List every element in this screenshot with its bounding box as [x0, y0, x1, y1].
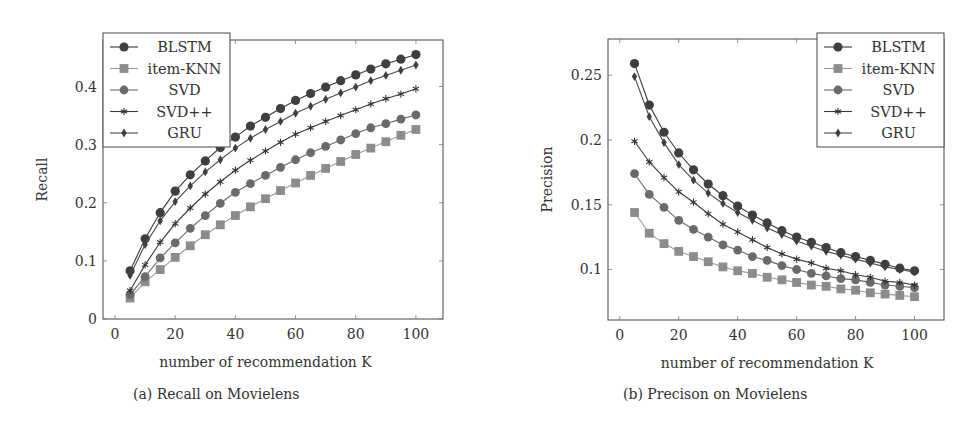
legend-marker-icon	[120, 86, 129, 95]
x-tick-label: 100	[403, 326, 430, 342]
data-point	[706, 189, 711, 198]
data-point	[338, 88, 343, 97]
data-point	[366, 64, 375, 73]
y-axis: 00.10.20.30.4Recall	[34, 79, 443, 328]
data-point	[777, 261, 786, 270]
y-tick-label: 0.15	[571, 197, 602, 213]
data-point	[910, 292, 919, 301]
data-point	[881, 290, 890, 299]
data-point	[691, 176, 696, 185]
y-tick-label: 0.2	[580, 132, 602, 148]
precision-chart-caption: (b) Precison on Movielens	[623, 386, 807, 402]
data-point	[836, 285, 845, 294]
data-point	[632, 72, 637, 81]
y-tick-label: 0	[88, 311, 97, 327]
recall-chart-panel: 020406080100number of recommendation K00…	[0, 0, 490, 439]
data-point	[366, 123, 375, 132]
x-tick-label: 40	[729, 327, 747, 343]
data-point	[218, 155, 223, 164]
data-point	[336, 136, 345, 145]
data-point	[262, 147, 268, 154]
x-tick-label: 80	[347, 326, 365, 342]
data-point	[720, 199, 725, 208]
data-point	[660, 203, 669, 212]
data-point	[171, 238, 180, 247]
data-point	[278, 117, 283, 126]
data-point	[733, 246, 742, 255]
data-point	[291, 179, 300, 188]
data-point	[704, 233, 713, 242]
data-point	[645, 190, 654, 199]
x-tick-label: 20	[670, 327, 688, 343]
data-point	[231, 211, 240, 220]
data-point	[718, 191, 727, 200]
data-point	[306, 89, 315, 98]
data-point	[291, 155, 300, 164]
data-point	[381, 59, 390, 68]
data-point	[748, 252, 757, 261]
data-point	[630, 208, 639, 217]
precision-chart-panel: 020406080100number of recommendation K0.…	[490, 0, 976, 439]
data-point	[733, 266, 742, 275]
data-point	[822, 282, 831, 291]
data-point	[411, 50, 420, 59]
data-point	[276, 163, 285, 172]
data-point	[171, 187, 180, 196]
data-point	[201, 230, 210, 239]
data-point	[689, 225, 698, 234]
y-tick-label: 0.4	[75, 79, 97, 95]
data-point	[246, 179, 255, 188]
x-axis-label: number of recommendation K	[159, 354, 372, 370]
legend-label: item-KNN	[862, 61, 936, 77]
data-point	[246, 121, 255, 130]
data-point	[323, 118, 329, 125]
data-point	[216, 220, 225, 229]
data-point	[792, 278, 801, 287]
data-point	[705, 210, 711, 217]
x-tick-label: 60	[287, 326, 305, 342]
legend-marker-icon	[120, 64, 129, 73]
precision-chart: 020406080100number of recommendation K0.…	[490, 0, 976, 439]
legend: BLSTMitem-KNNSVDSVD++GRU	[817, 33, 944, 147]
data-point	[291, 96, 300, 105]
data-point	[630, 169, 639, 178]
data-point	[396, 55, 405, 64]
data-point	[674, 148, 683, 157]
x-tick-label: 20	[166, 326, 184, 342]
data-point	[306, 148, 315, 157]
y-tick-label: 0.1	[580, 261, 602, 277]
x-tick-label: 80	[847, 327, 865, 343]
data-point	[381, 137, 390, 146]
data-point	[412, 111, 421, 120]
data-point	[396, 131, 405, 140]
data-point	[645, 229, 654, 238]
data-point	[660, 239, 669, 248]
series-item-knn	[630, 208, 919, 301]
legend-marker-icon	[834, 86, 843, 95]
data-point	[413, 85, 419, 92]
data-point	[276, 104, 285, 113]
data-point	[248, 134, 253, 143]
x-tick-label: 60	[788, 327, 806, 343]
data-point	[719, 263, 728, 272]
data-point	[351, 129, 360, 138]
x-tick-label: 0	[615, 327, 624, 343]
data-point	[720, 221, 726, 228]
y-tick-label: 0.25	[571, 67, 602, 83]
data-point	[368, 100, 374, 107]
data-point	[807, 269, 816, 278]
y-axis-label: Recall	[34, 157, 50, 201]
data-point	[792, 265, 801, 274]
data-point	[383, 95, 389, 102]
data-point	[336, 76, 345, 85]
data-point	[233, 144, 238, 153]
series-svd	[630, 169, 919, 292]
legend-label: SVD	[882, 82, 914, 98]
data-point	[630, 59, 639, 68]
data-point	[216, 199, 225, 208]
data-point	[156, 265, 165, 274]
legend-label: SVD	[168, 82, 200, 98]
data-point	[201, 211, 210, 220]
data-point	[704, 179, 713, 188]
data-point	[777, 275, 786, 284]
